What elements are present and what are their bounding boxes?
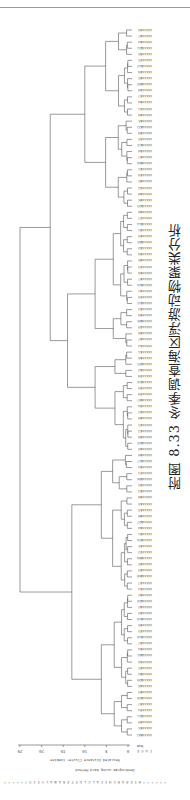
- leaf-label: XXXXXX: [140, 660, 152, 664]
- leaf-label: XXXXXX: [140, 64, 152, 68]
- leaf-label: XXXXXX: [140, 465, 152, 469]
- leaf-label: XXXXXX: [140, 587, 152, 591]
- leaf-label: XXXXXX: [140, 708, 152, 712]
- leaf-label: XXXXXX: [140, 82, 152, 86]
- leaf-label: XXXXXX: [140, 629, 152, 633]
- leaf-label: XXXXXX: [140, 574, 152, 578]
- leaf-label: XXXXXX: [140, 623, 152, 627]
- leaf-label: XXXXXX: [140, 702, 152, 706]
- leaf-label: XXXXXX: [140, 368, 152, 372]
- axis-tick: 10: [82, 749, 87, 754]
- leaf-label: XXXXXX: [140, 100, 152, 104]
- leaf-label: XXXXXX: [140, 544, 152, 548]
- leaf-label: XXXXXX: [140, 325, 152, 329]
- leaf-label: XXXXXX: [140, 617, 152, 621]
- leaf-label: XXXXXX: [140, 520, 152, 524]
- leaf-label: XXXXXX: [140, 258, 152, 262]
- leaf-label: XXXXXX: [140, 514, 152, 518]
- leaf-label: XXXXXX: [140, 647, 152, 651]
- leaf-label: XXXXXX: [140, 483, 152, 487]
- leaf-label: XXXXXX: [140, 88, 152, 92]
- leaf-label: XXXXXX: [140, 179, 152, 183]
- leaf-label: XXXXXX: [140, 161, 152, 165]
- leaf-label: XXXXXX: [140, 271, 152, 275]
- leaf-label: XXXXXX: [140, 137, 152, 141]
- leaf-label: XXXXXX: [140, 398, 152, 402]
- leaf-label: XXXXXX: [140, 143, 152, 147]
- leaf-label: XXXXXX: [140, 471, 152, 475]
- leaf-label: XXXXXX: [140, 435, 152, 439]
- leaf-label: XXXXXX: [140, 155, 152, 159]
- leaf-label: XXXXXX: [140, 277, 152, 281]
- leaf-label: XXXXXX: [140, 538, 152, 542]
- leaf-label: XXXXXX: [140, 380, 152, 384]
- leaf-label: XXXXXX: [140, 429, 152, 433]
- leaf-label: XXXXXX: [140, 556, 152, 560]
- leaf-label: XXXXXX: [140, 46, 152, 50]
- leaf-label: XXXXXX: [140, 186, 152, 190]
- leaf-label: XXXXXX: [140, 416, 152, 420]
- leaf-label: XXXXXX: [140, 240, 152, 244]
- leaf-label: XXXXXX: [140, 337, 152, 341]
- leaf-label: XXXXXX: [140, 374, 152, 378]
- axis-tick: 5: [105, 749, 108, 754]
- leaf-label: XXXXXX: [140, 58, 152, 62]
- leaf-label: XXXXXX: [140, 386, 152, 390]
- leaf-label: XXXXXX: [140, 40, 152, 44]
- leaf-label: XXXXXX: [140, 477, 152, 481]
- leaf-label: XXXXXX: [140, 593, 152, 597]
- axis-tick: 15: [60, 749, 65, 754]
- leaf-label: XXXXXX: [140, 568, 152, 572]
- axis-title: Rescaled Distance Cluster Combine: [50, 758, 120, 762]
- leaf-label: XXXXXX: [140, 52, 152, 56]
- leaf-label: XXXXXX: [140, 301, 152, 305]
- leaf-label: XXXXXX: [140, 666, 152, 670]
- axis-tick: 25: [17, 749, 22, 754]
- leaf-label: XXXXXX: [140, 94, 152, 98]
- case-title: C A S E: [137, 749, 152, 753]
- leaf-label: XXXXXX: [140, 70, 152, 74]
- leaf-label: XXXXXX: [140, 344, 152, 348]
- leaf-label: XXXXXX: [140, 234, 152, 238]
- leaf-label: XXXXXX: [140, 331, 152, 335]
- leaf-label: XXXXXX: [140, 635, 152, 639]
- leaf-label: XXXXXX: [140, 720, 152, 724]
- leaf-label: XXXXXX: [140, 356, 152, 360]
- leaf-label: XXXXXX: [140, 453, 152, 457]
- dendrogram: 10XXXXXX47XXXXXX84XXXXXX121XXXXXX38XXXXX…: [0, 0, 190, 800]
- leaf-label: XXXXXX: [140, 28, 152, 32]
- leaf-label: XXXXXX: [140, 289, 152, 293]
- leaf-label: XXXXXX: [140, 611, 152, 615]
- leaf-label: XXXXXX: [140, 76, 152, 80]
- leaf-label: XXXXXX: [140, 404, 152, 408]
- leaf-label: XXXXXX: [140, 726, 152, 730]
- leaf-label: XXXXXX: [140, 246, 152, 250]
- leaf-label: XXXXXX: [140, 350, 152, 354]
- leaf-label: XXXXXX: [140, 167, 152, 171]
- leaf-label: XXXXXX: [140, 526, 152, 530]
- leaf-label: XXXXXX: [140, 210, 152, 214]
- axis-tick: 0: [126, 749, 129, 754]
- leaf-label: XXXXXX: [140, 562, 152, 566]
- leaf-label: XXXXXX: [140, 307, 152, 311]
- leaf-label: XXXXXX: [140, 107, 152, 111]
- leaf-label: XXXXXX: [140, 34, 152, 38]
- leaf-label: XXXXXX: [140, 690, 152, 694]
- leaf-label: XXXXXX: [140, 119, 152, 123]
- leaf-label: XXXXXX: [140, 192, 152, 196]
- leaf-label: XXXXXX: [140, 222, 152, 226]
- leaf-label: XXXXXX: [140, 216, 152, 220]
- leaf-label: XXXXXX: [140, 678, 152, 682]
- leaf-label: XXXXXX: [140, 653, 152, 657]
- leaf-label: XXXXXX: [140, 204, 152, 208]
- leaf-label: XXXXXX: [140, 532, 152, 536]
- leaf-label: XXXXXX: [140, 410, 152, 414]
- leaf-label: XXXXXX: [140, 441, 152, 445]
- leaf-label: XXXXXX: [140, 265, 152, 269]
- leaf-label: XXXXXX: [140, 283, 152, 287]
- leaf-label: XXXXXX: [140, 733, 152, 737]
- leaf-label: XXXXXX: [140, 550, 152, 554]
- leaf-label: XXXXXX: [140, 599, 152, 603]
- leaf-label: XXXXXX: [140, 684, 152, 688]
- leaf-label: XXXXXX: [140, 502, 152, 506]
